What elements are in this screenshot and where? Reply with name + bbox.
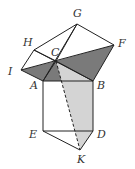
label-k: K: [76, 153, 86, 166]
label-i: I: [7, 65, 13, 78]
label-a: A: [29, 79, 38, 92]
label-e: E: [28, 128, 37, 141]
label-b: B: [96, 79, 105, 92]
label-c: C: [51, 46, 60, 59]
geometry-diagram: G H F C I A B E D K: [0, 0, 135, 169]
label-f: F: [117, 37, 126, 50]
label-g: G: [73, 7, 82, 20]
label-h: H: [22, 36, 33, 49]
label-d: D: [96, 128, 106, 141]
